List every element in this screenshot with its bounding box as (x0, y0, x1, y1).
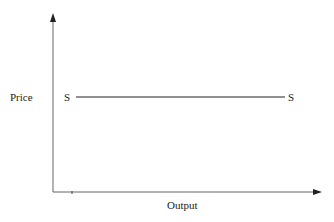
supply-label-right: S (288, 91, 294, 103)
supply-chart: Price Output S S (0, 0, 334, 222)
x-axis-arrow-icon (313, 189, 322, 195)
supply-label-left: S (64, 91, 70, 103)
y-axis-arrow-icon (50, 13, 56, 22)
y-axis-label: Price (10, 91, 33, 103)
chart-canvas (0, 0, 334, 222)
x-axis-label: Output (167, 199, 198, 211)
